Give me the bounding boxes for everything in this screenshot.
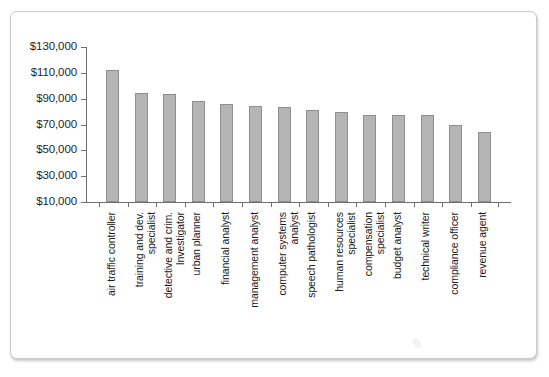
bar xyxy=(163,94,176,202)
x-axis-label: revenue agent xyxy=(477,212,489,278)
bar xyxy=(363,115,376,202)
y-tick-label: $110,000 xyxy=(31,66,77,78)
bar xyxy=(192,101,205,202)
x-tick xyxy=(271,203,272,207)
y-tick-label: $130,000 xyxy=(30,40,77,52)
x-tick xyxy=(328,203,329,207)
x-tick xyxy=(385,203,386,207)
bar xyxy=(220,104,233,202)
y-tick: $90,000 xyxy=(81,99,86,100)
bar xyxy=(106,70,119,202)
x-axis-label: technical writer xyxy=(420,212,432,280)
x-axis-label: financial analyst xyxy=(220,212,232,285)
x-tick xyxy=(185,203,186,207)
bar xyxy=(278,107,291,202)
bar xyxy=(478,132,491,202)
x-tick xyxy=(414,203,415,207)
x-axis-label: budget analyst xyxy=(392,212,404,279)
bar xyxy=(249,106,262,202)
y-tick-label: $90,000 xyxy=(36,92,77,104)
y-tick: $70,000 xyxy=(81,125,86,126)
x-tick xyxy=(99,203,100,207)
x-axis-label: computer systems analyst xyxy=(277,212,300,296)
x-axis-label: compliance officer xyxy=(449,212,461,295)
y-tick-label: $30,000 xyxy=(36,169,77,181)
chart-plot-area: $130,000$110,000$90,000$70,000$50,000$30… xyxy=(11,12,537,359)
x-tick xyxy=(128,203,129,207)
y-tick: $130,000 xyxy=(81,47,86,48)
y-axis-line xyxy=(86,47,87,203)
bar xyxy=(392,115,405,202)
y-tick: $110,000 xyxy=(81,73,86,74)
x-tick xyxy=(242,203,243,207)
x-axis-label: compensation specialist xyxy=(363,212,386,276)
y-tick-label: $10,000 xyxy=(36,195,77,207)
bar xyxy=(306,110,319,202)
bar xyxy=(335,112,348,202)
x-tick xyxy=(442,203,443,207)
x-tick xyxy=(471,203,472,207)
x-axis-label: speech pathologist xyxy=(306,212,318,298)
x-tick xyxy=(356,203,357,207)
y-tick: $50,000 xyxy=(81,150,86,151)
chart-card: $130,000$110,000$90,000$70,000$50,000$30… xyxy=(10,11,537,359)
bar xyxy=(449,125,462,202)
y-tick-label: $70,000 xyxy=(36,118,77,130)
y-tick: $10,000 xyxy=(81,202,86,203)
y-tick-label: $50,000 xyxy=(36,143,77,155)
x-axis-label: detective and crim. Investigator xyxy=(163,212,186,298)
bar xyxy=(135,93,148,202)
bar xyxy=(421,115,434,202)
x-axis-label: human resources specialist xyxy=(334,212,357,292)
x-tick xyxy=(299,203,300,207)
x-axis-label: air traffic controller xyxy=(106,212,118,296)
x-axis-label: management analyst xyxy=(249,212,261,308)
x-tick xyxy=(213,203,214,207)
y-tick: $30,000 xyxy=(81,176,86,177)
x-tick xyxy=(498,203,499,207)
x-axis-label: training and dev. specialist xyxy=(134,212,157,287)
x-tick xyxy=(156,203,157,207)
x-axis-label: urban planner xyxy=(191,212,203,276)
